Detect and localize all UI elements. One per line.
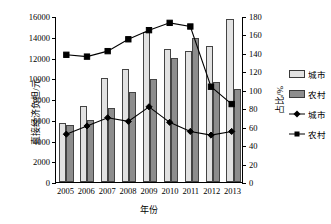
y-axis-label-secondary: 占比/% (273, 86, 286, 114)
y-tick-label-secondary: 100 (249, 87, 262, 96)
legend-label-2: 城市 (308, 108, 326, 120)
bar-2009-rural (150, 79, 157, 182)
y-tick-label-secondary: 20 (249, 160, 258, 169)
legend-swatch-urban-bar (289, 70, 305, 78)
y-tick-label-primary: 12000 (29, 54, 50, 63)
marker-rural-2006 (84, 54, 89, 59)
x-tick-label-2005: 2005 (57, 186, 74, 196)
y-tick-primary (52, 183, 56, 184)
y-tick-label-secondary: 140 (249, 50, 262, 59)
y-tick-primary (52, 121, 56, 122)
chart-legend: 城市农村城市农村 (289, 64, 331, 144)
bar-2006-rural (87, 120, 94, 182)
marker-rural-2008 (126, 37, 131, 42)
y-tick-primary (52, 38, 56, 39)
bar-2012-rural (213, 82, 220, 182)
legend-marker-rural-line (289, 130, 305, 139)
bar-2010-rural (171, 58, 178, 182)
x-tick-label-2008: 2008 (120, 186, 137, 196)
y-axis-label-primary: 直接经济负担/元 (29, 79, 42, 145)
bar-2008-rural (129, 92, 136, 182)
legend-label-1: 农村 (308, 88, 326, 100)
y-tick-secondary (242, 183, 246, 184)
y-tick-label-primary: 4000 (33, 137, 50, 146)
legend-label-3: 农村 (308, 128, 326, 140)
marker-rural-2007 (105, 48, 110, 53)
y-tick-secondary (242, 146, 246, 147)
y-tick-primary (52, 162, 56, 163)
x-tick-label-2013: 2013 (224, 186, 241, 196)
y-tick-label-secondary: 0 (249, 179, 253, 188)
bar-2007-rural (108, 108, 115, 182)
x-tick-label-2009: 2009 (141, 186, 158, 196)
bar-2010-urban (164, 49, 171, 182)
y-tick-primary (52, 59, 56, 60)
bar-2013-urban (226, 19, 233, 182)
legend-label-0: 城市 (308, 68, 326, 80)
y-tick-label-secondary: 80 (249, 105, 258, 114)
y-tick-secondary (242, 54, 246, 55)
x-axis-label: 年份 (140, 203, 158, 216)
y-tick-primary (52, 79, 56, 80)
y-tick-label-secondary: 60 (249, 123, 258, 132)
y-tick-label-secondary: 160 (249, 31, 262, 40)
y-tick-secondary (242, 165, 246, 166)
bar-2005-rural (66, 125, 73, 182)
x-tick-label-2012: 2012 (203, 186, 220, 196)
plot-area: 0200040006000800010000120001400016000 02… (55, 17, 243, 183)
marker-rural-2010 (167, 20, 172, 25)
x-tick-label-2011: 2011 (182, 186, 199, 196)
y-tick-label-secondary: 180 (249, 13, 262, 22)
legend-item-0[interactable]: 城市 (289, 64, 331, 84)
y-tick-label-secondary: 40 (249, 142, 258, 151)
bar-2005-urban (59, 123, 66, 182)
y-tick-primary (52, 100, 56, 101)
y-tick-secondary (242, 128, 246, 129)
bar-2007-urban (101, 78, 108, 182)
square-icon (295, 132, 300, 137)
y-tick-primary (52, 17, 56, 18)
marker-rural-2005 (64, 52, 69, 57)
bar-2012-urban (206, 46, 213, 182)
y-tick-label-primary: 10000 (29, 75, 50, 84)
y-tick-secondary (242, 91, 246, 92)
y-tick-secondary (242, 17, 246, 18)
y-tick-secondary (242, 35, 246, 36)
bar-2011-urban (185, 51, 192, 182)
bar-2009-urban (143, 32, 150, 182)
y-tick-primary (52, 142, 56, 143)
y-tick-label-primary: 8000 (33, 96, 50, 105)
legend-swatch-rural-bar (289, 90, 305, 98)
bar-2006-urban (80, 106, 87, 182)
marker-rural-2011 (188, 24, 193, 29)
bar-2011-rural (192, 38, 199, 182)
x-tick-label-2010: 2010 (161, 186, 178, 196)
y-tick-label-primary: 0 (46, 179, 50, 188)
bar-2013-rural (234, 89, 241, 182)
y-tick-label-primary: 2000 (33, 158, 50, 167)
y-tick-label-primary: 16000 (29, 13, 50, 22)
y-tick-label-primary: 6000 (33, 117, 50, 126)
legend-marker-urban-line (289, 110, 305, 119)
y-tick-label-primary: 14000 (29, 34, 50, 43)
legend-item-2[interactable]: 城市 (289, 104, 331, 124)
diamond-icon (293, 110, 300, 117)
x-tick-label-2006: 2006 (78, 186, 95, 196)
y-tick-secondary (242, 109, 246, 110)
chart-root: 直接经济负担/元 占比/% 年份 02000400060008000100001… (0, 0, 331, 224)
legend-item-1[interactable]: 农村 (289, 84, 331, 104)
x-tick-label-2007: 2007 (99, 186, 116, 196)
bar-2008-urban (122, 69, 129, 182)
y-tick-secondary (242, 72, 246, 73)
legend-item-3[interactable]: 农村 (289, 124, 331, 144)
y-tick-label-secondary: 120 (249, 68, 262, 77)
